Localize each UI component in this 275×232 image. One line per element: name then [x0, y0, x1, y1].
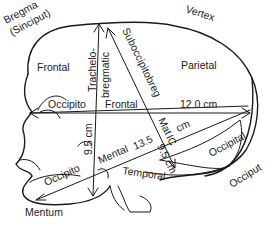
fetal-skull-diagram: Bregma (Sinciput) Vertex Frontal Parieta… — [0, 0, 275, 232]
label-occipito-upper: Occipito — [48, 98, 86, 110]
label-frontal-region: Frontal — [37, 61, 70, 73]
label-vertex: Vertex — [184, 2, 217, 23]
label-9-5cm-vertical: 9.5 cm — [82, 123, 94, 155]
label-trachelo: Trachelo- — [86, 48, 98, 92]
occipital-line-outer — [205, 78, 253, 176]
label-temporal: Temporal — [122, 164, 166, 182]
label-13-5-unit: cm — [174, 117, 192, 134]
label-suboccipitobreg: Suboccipitobreg — [120, 26, 164, 99]
label-parietal: Parietal — [181, 59, 217, 71]
label-occiput: Occiput — [227, 161, 264, 190]
label-12cm: 12.0 cm — [180, 98, 218, 110]
mandible-detail — [110, 186, 151, 212]
nasal-contour — [20, 159, 40, 170]
label-mentum: Mentum — [25, 206, 63, 218]
label-occipital: Occipital — [206, 129, 247, 158]
face-profile — [16, 74, 110, 205]
arrowhead-mental — [36, 194, 46, 200]
label-bregmatic: bregmatic — [99, 52, 111, 98]
label-frontal-diameter: Frontal — [105, 98, 138, 110]
label-13-5: 13.5 — [131, 132, 155, 151]
